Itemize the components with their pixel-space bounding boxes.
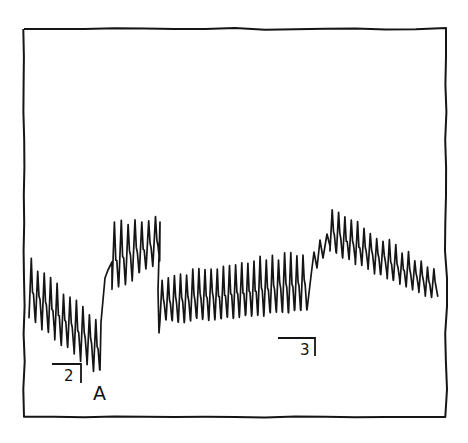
scale-marker-3-label: 3 (300, 341, 310, 359)
scale-marker-3: 3 (278, 338, 315, 359)
point-a-label: A (93, 382, 106, 404)
recording-figure: 2 3 A (0, 0, 468, 443)
scale-marker-2-label: 2 (64, 367, 74, 385)
recording-trace (29, 210, 438, 372)
scale-marker-2: 2 (52, 364, 81, 385)
